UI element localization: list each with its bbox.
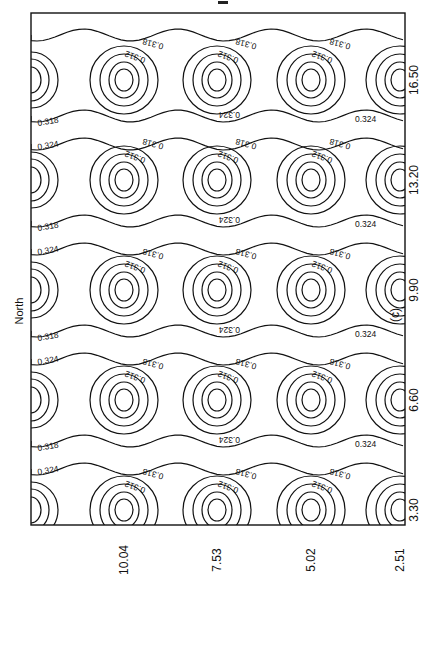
- contour-ring: [208, 389, 226, 411]
- contour-ring: [302, 279, 320, 301]
- svg-text:0.324: 0.324: [355, 329, 377, 339]
- svg-text:0.318: 0.318: [234, 36, 257, 51]
- contour-0324: [31, 325, 403, 337]
- svg-text:0.318: 0.318: [328, 136, 351, 151]
- svg-text:9.90: 9.90: [407, 278, 421, 302]
- svg-text:0.324: 0.324: [218, 325, 240, 335]
- svg-text:0.318: 0.318: [328, 36, 351, 51]
- panel-caption: (c): [388, 308, 402, 322]
- svg-text:0.324: 0.324: [355, 439, 377, 449]
- svg-text:0.324: 0.324: [37, 353, 60, 367]
- svg-text:0.324: 0.324: [355, 219, 377, 229]
- svg-text:0.318: 0.318: [37, 219, 60, 233]
- contour-ring: [296, 382, 326, 418]
- contour-ring: [302, 169, 320, 191]
- contour-ring: [109, 62, 139, 98]
- contour-ring: [202, 382, 232, 418]
- contour-0324: [31, 215, 403, 227]
- svg-text:0.318: 0.318: [234, 136, 257, 151]
- svg-text:0.318: 0.318: [328, 246, 351, 261]
- contour-lines: [4, 29, 434, 544]
- contour-ring: [302, 69, 320, 91]
- contour-ring: [296, 162, 326, 198]
- contour-ring: [115, 69, 133, 91]
- contour-ring: [296, 272, 326, 308]
- contour-plot: 0.3240.3180.3240.3240.3240.3180.3240.324…: [0, 0, 448, 645]
- contour-ring: [202, 162, 232, 198]
- contour-0324: [31, 435, 403, 447]
- svg-text:0.318: 0.318: [37, 329, 60, 343]
- svg-text:0.318: 0.318: [141, 36, 164, 51]
- contour-ring: [115, 169, 133, 191]
- contour-ring: [208, 279, 226, 301]
- contour-ring: [202, 272, 232, 308]
- contour-ring: [109, 382, 139, 418]
- contour-ring: [109, 272, 139, 308]
- svg-text:0.324: 0.324: [37, 463, 60, 477]
- svg-text:0.318: 0.318: [328, 356, 351, 371]
- contour-ring: [115, 389, 133, 411]
- contour-ring: [296, 492, 326, 528]
- svg-text:0.318: 0.318: [141, 356, 164, 371]
- svg-text:0.318: 0.318: [141, 466, 164, 481]
- svg-text:0.324: 0.324: [37, 243, 60, 257]
- contour-ring: [202, 492, 232, 528]
- contour-ring: [302, 389, 320, 411]
- contour-ring: [109, 492, 139, 528]
- svg-text:0.324: 0.324: [355, 114, 377, 124]
- contour-ring: [208, 169, 226, 191]
- svg-text:0.318: 0.318: [234, 246, 257, 261]
- svg-text:2.51: 2.51: [393, 548, 407, 572]
- svg-text:0.318: 0.318: [37, 114, 60, 128]
- svg-text:6.60: 6.60: [407, 388, 421, 412]
- svg-text:0.324: 0.324: [218, 215, 240, 225]
- svg-text:0.318: 0.318: [234, 356, 257, 371]
- svg-text:10.04: 10.04: [117, 545, 131, 575]
- contour-ring: [208, 499, 226, 521]
- svg-text:0.318: 0.318: [328, 466, 351, 481]
- contour-ring: [302, 499, 320, 521]
- contour-ring: [208, 69, 226, 91]
- svg-text:0.324: 0.324: [37, 138, 60, 152]
- svg-text:0.318: 0.318: [37, 439, 60, 453]
- contour-ring: [296, 62, 326, 98]
- svg-text:7.53: 7.53: [210, 548, 224, 572]
- contour-ring: [115, 499, 133, 521]
- svg-text:5.02: 5.02: [304, 548, 318, 572]
- svg-text:0.318: 0.318: [141, 246, 164, 261]
- svg-text:16.50: 16.50: [407, 65, 421, 95]
- svg-text:13.20: 13.20: [407, 165, 421, 195]
- svg-text:3.30: 3.30: [407, 498, 421, 522]
- axis-label-north: North: [13, 298, 25, 325]
- contour-ring: [115, 279, 133, 301]
- svg-text:0.324: 0.324: [218, 110, 240, 120]
- contour-0324: [31, 110, 403, 122]
- contour-ring: [109, 162, 139, 198]
- svg-text:0.318: 0.318: [141, 136, 164, 151]
- contour-ring: [202, 62, 232, 98]
- svg-text:0.318: 0.318: [234, 466, 257, 481]
- svg-text:0.324: 0.324: [218, 435, 240, 445]
